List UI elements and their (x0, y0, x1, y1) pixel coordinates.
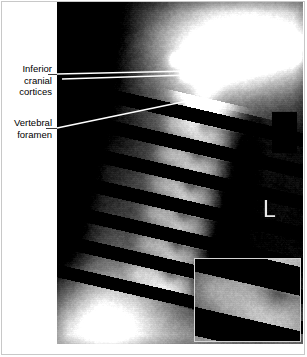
leader-stub-vertebral-foramen (46, 128, 57, 129)
inset-canvas (195, 259, 300, 341)
laterality-marker-l: L (263, 198, 276, 221)
radiograph-figure: L Inferior cranial cortices Vertebral fo… (0, 0, 307, 357)
leader-stub-inferior-cranial-cortices (48, 74, 57, 75)
redaction-block (272, 112, 297, 153)
annotation-label-inferior-cranial-cortices: Inferior cranial cortices (19, 63, 52, 98)
annotation-margin: Inferior cranial cortices Vertebral fora… (0, 0, 57, 357)
magnified-detail-inset (194, 258, 301, 342)
